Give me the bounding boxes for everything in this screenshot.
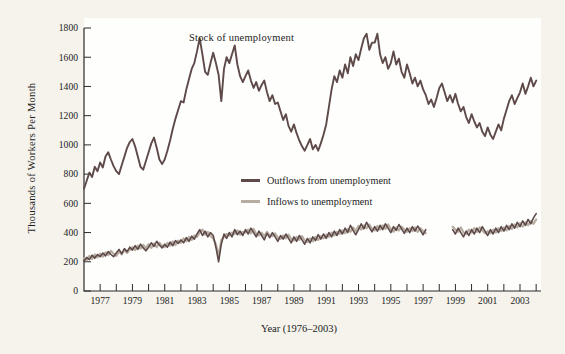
figure: 0200400600800100012001400160018001977197…: [0, 0, 565, 354]
y-tick-label: 800: [64, 168, 79, 179]
legend-label-inflows: Inflows to unemployment: [267, 196, 372, 207]
x-axis-title: Year (1976–2003): [84, 323, 514, 334]
y-tick-label: 400: [64, 227, 79, 238]
x-tick-label: 1981: [155, 295, 174, 306]
stock-annotation: Stock of unemployment: [189, 32, 294, 43]
x-tick-label: 1995: [381, 295, 400, 306]
y-tick-label: 200: [64, 256, 79, 267]
legend-label-outflows: Outflows from unemployment: [267, 175, 391, 186]
y-tick-label: 1400: [59, 81, 78, 92]
y-tick-label: 1800: [59, 22, 78, 33]
x-tick-label: 1989: [284, 295, 303, 306]
y-axis-title: Thousands of Workers Per Month: [26, 83, 37, 234]
inflows-line-swatch: [241, 200, 260, 203]
x-tick-label: 1999: [446, 295, 465, 306]
y-tick-label: 0: [73, 285, 78, 296]
legend: Outflows from unemployment Inflows to un…: [241, 170, 391, 212]
y-tick-label: 1200: [59, 110, 78, 121]
x-tick-label: 2001: [478, 295, 497, 306]
x-tick-label: 1977: [91, 295, 110, 306]
x-tick-label: 1997: [414, 295, 433, 306]
y-tick-label: 1600: [59, 52, 78, 63]
x-tick-label: 1991: [317, 295, 336, 306]
x-tick-label: 1983: [187, 295, 206, 306]
legend-item-inflows: Inflows to unemployment: [241, 191, 391, 212]
outflows-line-swatch: [241, 179, 260, 182]
x-tick-label: 1979: [123, 295, 142, 306]
x-tick-label: 1985: [220, 295, 239, 306]
x-tick-label: 1993: [349, 295, 368, 306]
y-tick-label: 1000: [59, 139, 78, 150]
x-tick-label: 1987: [252, 295, 271, 306]
x-tick-label: 2003: [510, 295, 529, 306]
legend-item-outflows: Outflows from unemployment: [241, 170, 391, 191]
y-tick-label: 600: [64, 198, 79, 209]
plot-area: [84, 18, 541, 291]
